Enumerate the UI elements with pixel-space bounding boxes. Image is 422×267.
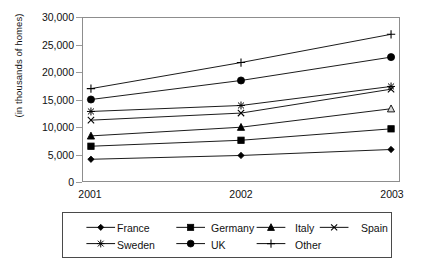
legend-label-italy: Italy [295, 222, 314, 234]
plot-series-canvas [83, 18, 399, 181]
data-point-diamond [388, 146, 394, 152]
data-point-diamond [98, 224, 104, 230]
data-point-circle [87, 96, 94, 103]
data-point-plus [237, 58, 245, 66]
y-tick-label: 30,000 [42, 11, 74, 23]
plot-area [82, 17, 400, 182]
y-tick-label: 25,000 [42, 39, 74, 51]
data-point-plus [267, 240, 275, 248]
x-tick-label: 2003 [380, 188, 403, 200]
data-point-plus [87, 84, 95, 92]
data-point-square [188, 224, 194, 230]
data-point-square [238, 137, 244, 143]
x-tick-label: 2002 [229, 188, 252, 200]
data-point-circle [187, 240, 194, 247]
legend-label-other: Other [295, 239, 321, 251]
data-point-circle [237, 77, 244, 84]
y-tick-label: 10,000 [42, 121, 74, 133]
legend-label-spain: Spain [361, 222, 388, 234]
data-point-square [388, 126, 394, 132]
data-point-asterisk [87, 108, 95, 116]
data-point-diamond [238, 152, 244, 158]
data-point-plus [387, 30, 395, 38]
legend-markers [63, 213, 391, 257]
data-point-asterisk [237, 102, 245, 110]
line-chart: (in thousands of homes) 05,00010,00015,0… [0, 0, 422, 267]
legend-label-germany: Germany [211, 222, 254, 234]
data-point-asterisk [387, 83, 395, 91]
data-point-square [88, 143, 94, 149]
y-tick-label: 15,000 [42, 94, 74, 106]
x-tick-label: 2001 [78, 188, 101, 200]
legend-label-sweden: Sweden [117, 239, 155, 251]
data-point-triangle [387, 105, 394, 112]
y-tick-label: 0 [68, 176, 74, 188]
legend-label-uk: UK [211, 239, 226, 251]
data-point-diamond [88, 156, 94, 162]
legend-label-france: France [117, 222, 150, 234]
y-tick-label: 20,000 [42, 66, 74, 78]
y-tick-label: 5,000 [48, 149, 74, 161]
y-axis-tick-labels: 05,00010,00015,00020,00025,00030,000 [0, 0, 80, 200]
chart-legend: FranceGermanyItalySpainSwedenUKOther [62, 212, 392, 258]
y-tick-mark [76, 182, 82, 183]
data-point-circle [387, 54, 394, 61]
data-point-asterisk [97, 240, 105, 248]
